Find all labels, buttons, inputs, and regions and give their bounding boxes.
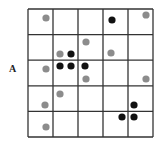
black-dot [67,62,74,69]
black-dot [130,101,137,108]
gray-dot [142,11,149,18]
gray-dot [42,123,49,130]
gray-dot [42,65,49,72]
gray-dot [82,75,89,82]
black-dot [81,62,88,69]
black-dot [118,113,125,120]
gray-dot [107,49,114,56]
black-dot [56,62,63,69]
grid-diagram: A [0,0,160,150]
gray-dot [56,50,63,57]
black-dot [108,16,115,23]
black-dot [67,50,74,57]
gray-dot [41,101,48,108]
gray-dot [142,75,149,82]
dot-grid [0,0,160,150]
black-dot [130,113,137,120]
gray-dot [82,38,89,45]
gray-dot [42,14,49,21]
gray-dot [56,90,63,97]
